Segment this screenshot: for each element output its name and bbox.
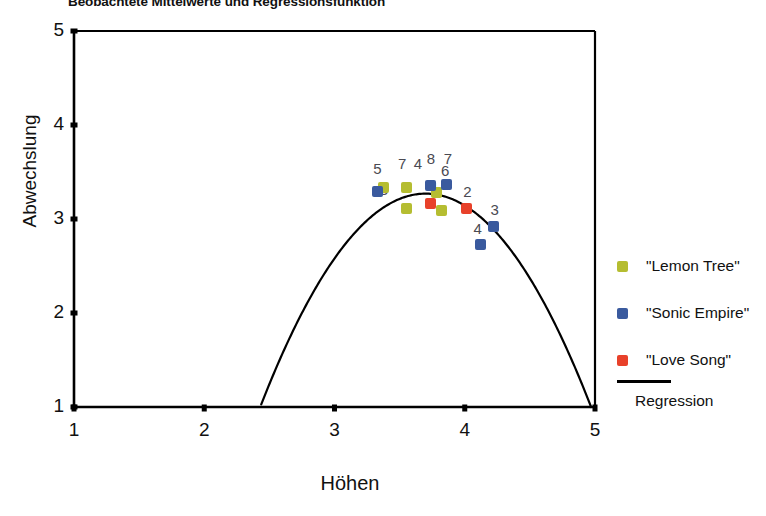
legend-swatch [617, 355, 628, 366]
legend-line-swatch [617, 380, 671, 383]
axes [71, 29, 598, 412]
data-point-marker [401, 203, 412, 214]
y-tick-4: 4 [40, 113, 64, 135]
point-label: 5 [368, 160, 386, 177]
x-tick-5: 5 [582, 419, 608, 441]
point-label: 3 [486, 201, 504, 218]
legend-item: "Love Song" [610, 352, 731, 368]
data-point-marker [401, 182, 412, 193]
point-label: 6 [436, 162, 454, 179]
data-point-marker [441, 179, 452, 190]
data-point-marker [425, 180, 436, 191]
point-label: 2 [458, 183, 476, 200]
chart-figure: Beobachtete Mittelwerte und Regressionsf… [0, 0, 766, 516]
y-tick-5: 5 [40, 19, 64, 41]
legend-item: "Sonic Empire" [610, 305, 749, 321]
data-point-marker [372, 186, 383, 197]
point-label: 4 [469, 220, 487, 237]
data-point-marker [436, 205, 447, 216]
x-tick-2: 2 [191, 419, 217, 441]
data-point-marker [488, 221, 499, 232]
x-tick-1: 1 [61, 419, 87, 441]
y-tick-3: 3 [40, 207, 64, 229]
legend-item: "Lemon Tree" [610, 258, 740, 274]
x-tick-4: 4 [452, 419, 478, 441]
legend-swatch [617, 261, 628, 272]
regression-curve [261, 194, 591, 407]
data-point-marker [461, 203, 472, 214]
legend-label: "Lemon Tree" [646, 257, 740, 275]
legend-label: "Love Song" [646, 351, 731, 369]
data-point-marker [475, 239, 486, 250]
legend-label: "Sonic Empire" [646, 304, 749, 322]
x-tick-3: 3 [322, 419, 348, 441]
data-point-marker [425, 198, 436, 209]
y-tick-2: 2 [40, 301, 64, 323]
legend-swatch [617, 308, 628, 319]
legend-regression-label: Regression [635, 392, 713, 410]
y-tick-1: 1 [40, 395, 64, 417]
